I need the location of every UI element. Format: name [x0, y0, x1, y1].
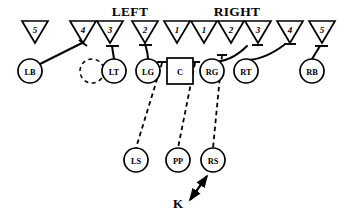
defender-number: 3 — [107, 25, 113, 35]
assign-rt-to-4 — [246, 45, 284, 60]
back-row: LS PP RS — [124, 148, 225, 172]
defender-number: 4 — [287, 25, 293, 35]
player-label: LG — [142, 68, 155, 77]
defender-5-left[interactable]: 5 — [22, 21, 48, 43]
assign-lg-to-2 — [145, 44, 148, 59]
defender-4-right[interactable]: 4 — [277, 21, 303, 43]
header-right: RIGHT — [214, 4, 261, 19]
kicker-arrow-tail — [190, 177, 206, 200]
player-label: LT — [109, 68, 120, 77]
kicker-label: K — [173, 196, 184, 211]
defender-number: 1 — [202, 25, 207, 35]
formation-diagram: LEFT RIGHT 5 4 3 2 1 — [0, 0, 337, 224]
assign-lb-to-4 — [40, 43, 82, 64]
assign-rb-to-5 — [312, 46, 320, 59]
defender-number: 2 — [142, 25, 148, 35]
player-rg[interactable]: RG — [200, 59, 224, 83]
player-pp[interactable]: PP — [166, 148, 190, 172]
defender-number: 2 — [228, 25, 234, 35]
defender-number: 5 — [320, 25, 325, 35]
player-lt[interactable]: LT — [102, 59, 126, 83]
player-label: C — [177, 68, 183, 77]
player-label: RT — [240, 68, 252, 77]
player-ls[interactable]: LS — [124, 148, 148, 172]
player-label: LB — [24, 68, 36, 77]
player-label: RS — [208, 157, 219, 166]
defender-number: 3 — [255, 25, 261, 35]
defender-5-right[interactable]: 5 — [309, 21, 335, 43]
player-lg[interactable]: LG — [136, 59, 160, 83]
blocker-row: LB LT LG C RG RT — [18, 58, 324, 84]
assign-k-to-rs — [190, 176, 207, 200]
player-rs[interactable]: RS — [201, 148, 225, 172]
player-label: LS — [131, 157, 142, 166]
defender-row: 5 4 3 2 1 1 2 — [22, 21, 335, 43]
defender-number: 4 — [80, 25, 86, 35]
defender-2-left[interactable]: 2 — [132, 21, 158, 43]
defender-4-left[interactable]: 4 — [70, 21, 96, 43]
defender-1-right[interactable]: 1 — [191, 21, 217, 43]
defender-2-right[interactable]: 2 — [218, 21, 244, 43]
defender-1-left[interactable]: 1 — [164, 21, 190, 43]
player-rb[interactable]: RB — [300, 59, 324, 83]
defender-3-right[interactable]: 3 — [245, 21, 271, 43]
player-lb[interactable]: LB — [18, 59, 42, 83]
assign-lt-to-3 — [112, 46, 114, 59]
defender-number: 5 — [33, 25, 38, 35]
player-label: RB — [306, 68, 318, 77]
player-label: RG — [206, 68, 219, 77]
player-c[interactable]: C — [167, 58, 193, 84]
player-rt[interactable]: RT — [234, 59, 258, 83]
defender-3-left[interactable]: 3 — [97, 21, 123, 43]
player-vacant[interactable] — [80, 59, 104, 83]
header-left: LEFT — [112, 4, 148, 19]
player-label: PP — [173, 157, 183, 166]
defender-number: 1 — [175, 25, 180, 35]
